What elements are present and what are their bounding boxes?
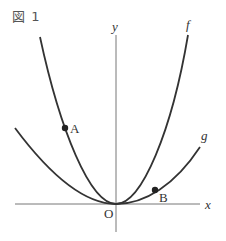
y-axis-label: y — [110, 19, 118, 34]
curve-f-label: f — [186, 17, 192, 32]
point-b — [152, 187, 158, 193]
point-b-label: B — [159, 190, 168, 205]
curve-f-smooth — [40, 35, 188, 204]
curve-g-label: g — [201, 128, 208, 143]
curve-g — [15, 128, 200, 204]
point-a — [62, 125, 68, 131]
parabola-diagram: y x O f g A B — [0, 0, 226, 241]
x-axis-label: x — [204, 197, 211, 212]
point-a-label: A — [70, 121, 80, 136]
origin-label: O — [104, 206, 113, 221]
